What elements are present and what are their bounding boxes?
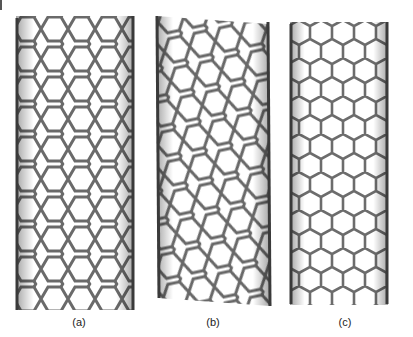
panel-label-a: (a) xyxy=(59,316,99,328)
panel-label-b: (b) xyxy=(193,316,233,328)
nanotube-a xyxy=(16,16,134,310)
nanotube-c xyxy=(290,22,388,305)
panel-label-c: (c) xyxy=(325,316,365,328)
nanotube-figure xyxy=(0,0,413,337)
nanotube-b xyxy=(156,16,270,306)
